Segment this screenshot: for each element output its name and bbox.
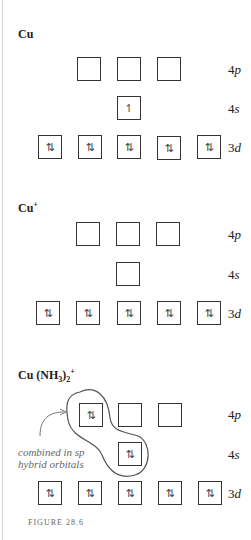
- figure-caption: FIGURE 28.6: [28, 518, 84, 527]
- hybrid-annotation: combined in sp hybrid orbitals: [18, 446, 85, 470]
- annotation-line-1: combined in sp: [18, 446, 85, 458]
- annotation-line-2: hybrid orbitals: [18, 458, 85, 470]
